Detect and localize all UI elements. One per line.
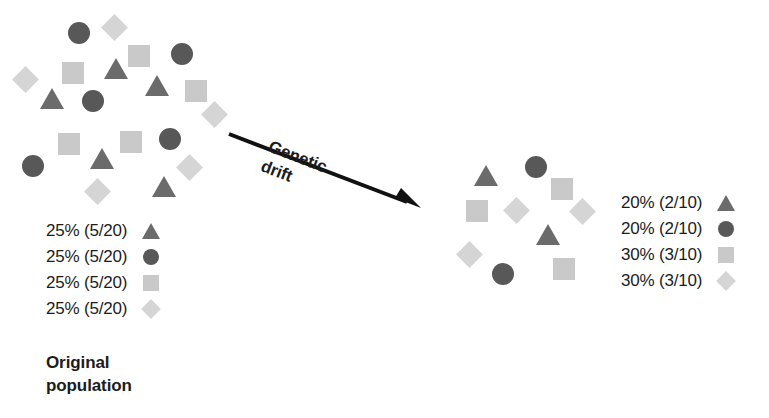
square-marker [136, 275, 166, 291]
triangle-individual [536, 224, 560, 245]
triangle-individual [90, 148, 114, 169]
legend-label: 20% (2/10) [621, 193, 702, 213]
legend-label: 20% (2/10) [621, 219, 702, 239]
square-individual [58, 133, 80, 155]
circle-marker [711, 221, 741, 237]
square-individual [120, 131, 142, 153]
diamond-marker [711, 274, 741, 288]
circle-individual [68, 22, 90, 44]
triangle-individual [474, 165, 498, 186]
circle-individual [159, 128, 181, 150]
legend-item: 20% (2/10) [621, 218, 741, 240]
diamond-individual [569, 198, 596, 225]
genetic-drift-figure: 25% (5/20) 25% (5/20) 25% (5/20) 25% (5/… [0, 0, 769, 418]
triangle-marker [136, 223, 166, 239]
diamond-individual [12, 66, 39, 93]
square-individual [185, 80, 207, 102]
legend-item: 25% (5/20) [46, 272, 166, 294]
diamond-individual [503, 197, 530, 224]
diamond-individual [84, 178, 111, 205]
square-individual [62, 62, 84, 84]
diamond-individual [176, 154, 203, 181]
square-individual [551, 178, 573, 200]
legend-label: 25% (5/20) [46, 299, 127, 319]
legend-label: 30% (3/10) [621, 271, 702, 291]
triangle-individual [104, 58, 128, 79]
legend-label: 25% (5/20) [46, 221, 127, 241]
legend-item: 20% (2/10) [621, 192, 741, 214]
legend-label: 25% (5/20) [46, 273, 127, 293]
drifted-population-legend: 20% (2/10) 20% (2/10) 30% (3/10) 30% (3/… [621, 192, 741, 296]
triangle-individual [145, 75, 169, 96]
square-individual [553, 258, 575, 280]
original-population-caption: Original population [46, 352, 132, 398]
circle-marker [136, 249, 166, 265]
square-individual [466, 200, 488, 222]
genetic-drift-arrow-group: Genetic drift [225, 128, 435, 223]
legend-label: 25% (5/20) [46, 247, 127, 267]
legend-item: 25% (5/20) [46, 246, 166, 268]
triangle-individual [152, 176, 176, 197]
circle-individual [171, 43, 193, 65]
legend-item: 25% (5/20) [46, 220, 166, 242]
diamond-marker [136, 302, 166, 316]
triangle-individual [40, 88, 64, 109]
circle-individual [492, 263, 514, 285]
original-population-legend: 25% (5/20) 25% (5/20) 25% (5/20) 25% (5/… [46, 220, 166, 324]
caption-line-1: Original [46, 352, 132, 375]
diamond-individual [101, 14, 128, 41]
square-individual [128, 45, 150, 67]
square-marker [711, 247, 741, 263]
caption-line-2: population [46, 375, 132, 398]
diamond-individual [201, 101, 228, 128]
circle-individual [82, 90, 104, 112]
legend-item: 25% (5/20) [46, 298, 166, 320]
legend-label: 30% (3/10) [621, 245, 702, 265]
triangle-marker [711, 195, 741, 211]
legend-item: 30% (3/10) [621, 244, 741, 266]
diamond-individual [456, 241, 483, 268]
legend-item: 30% (3/10) [621, 270, 741, 292]
circle-individual [525, 156, 547, 178]
circle-individual [22, 155, 44, 177]
